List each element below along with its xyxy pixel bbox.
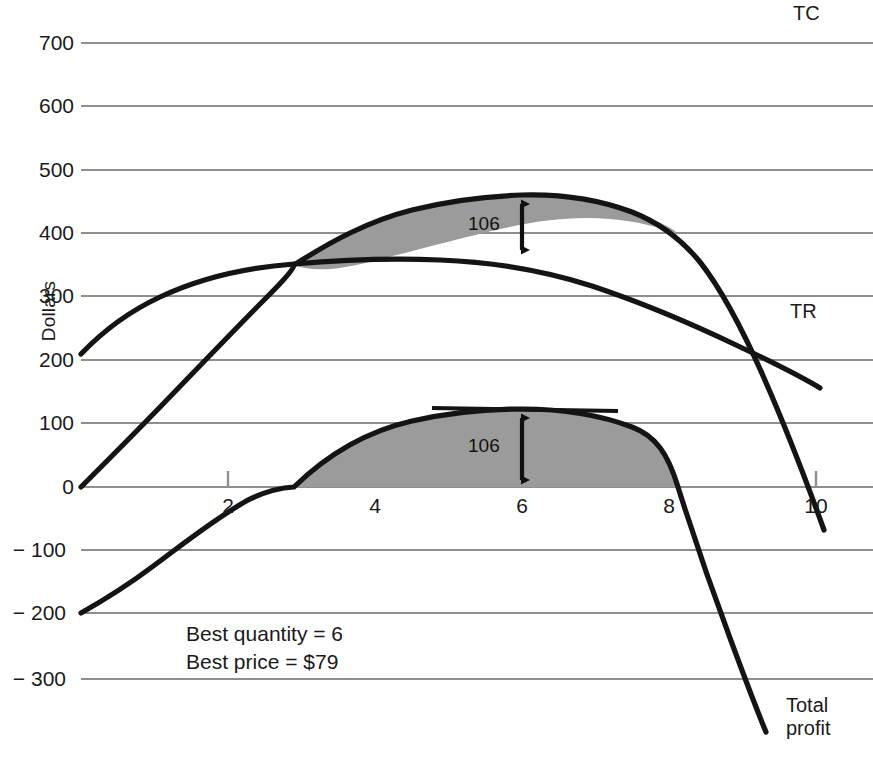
- chart-canvas: [0, 0, 873, 764]
- dimension-label-lower: 106: [468, 435, 500, 457]
- y-tick-label-neg100: − 100: [0, 538, 66, 562]
- y-tick-label-neg300: − 300: [0, 667, 66, 691]
- y-tick-label-700: 700: [0, 31, 74, 55]
- y-tick-label-500: 500: [0, 158, 74, 182]
- y-tick-label-0: 0: [0, 475, 74, 499]
- y-tick-label-neg200: − 200: [0, 601, 66, 625]
- dimension-label-upper: 106: [468, 213, 500, 235]
- x-tick-label-6: 6: [492, 494, 552, 518]
- annotation-best-quantity: Best quantity = 6: [186, 620, 343, 648]
- y-tick-label-600: 600: [0, 94, 74, 118]
- curve-label-tc: TC: [793, 2, 820, 25]
- chart-figure: Dollars 700 600 500 400 300 200 100 0 − …: [0, 0, 873, 764]
- annotation-best-price: Best price = $79: [186, 648, 338, 676]
- x-tick-label-8: 8: [639, 494, 699, 518]
- y-tick-label-400: 400: [0, 221, 74, 245]
- y-tick-label-300: 300: [0, 284, 74, 308]
- curve-label-total-profit: Total profit: [786, 694, 830, 740]
- x-tick-label-10: 10: [786, 494, 846, 518]
- x-tick-label-2: 2: [198, 494, 258, 518]
- y-tick-label-200: 200: [0, 348, 74, 372]
- curve-label-tr: TR: [790, 300, 817, 323]
- y-tick-label-100: 100: [0, 411, 74, 435]
- x-tick-label-4: 4: [345, 494, 405, 518]
